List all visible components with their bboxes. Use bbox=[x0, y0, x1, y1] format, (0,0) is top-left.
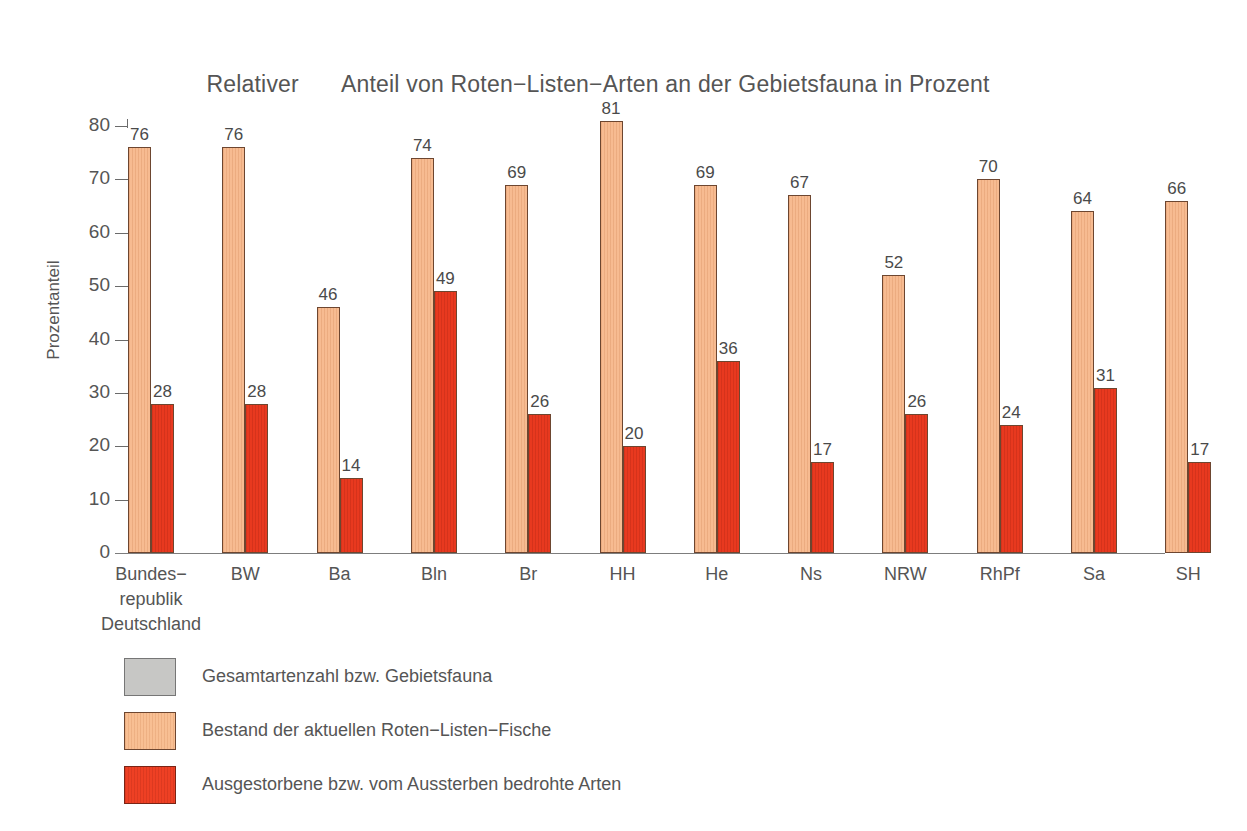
bar[interactable] bbox=[411, 158, 434, 553]
bar[interactable] bbox=[434, 291, 457, 553]
bar-chart: RelativerAnteil von Roten−Listen−Arten a… bbox=[0, 0, 1247, 831]
bar[interactable] bbox=[1165, 201, 1188, 553]
bar[interactable] bbox=[1000, 425, 1023, 553]
bar-value-label: 81 bbox=[602, 100, 621, 117]
x-tick-label: SH bbox=[1113, 562, 1247, 587]
bar[interactable] bbox=[151, 404, 174, 553]
bar[interactable] bbox=[717, 361, 740, 553]
legend-swatch bbox=[124, 766, 176, 804]
bar-value-label: 74 bbox=[413, 137, 432, 154]
bar[interactable] bbox=[245, 404, 268, 553]
bar-value-label: 24 bbox=[1002, 404, 1021, 421]
bar[interactable] bbox=[128, 147, 151, 553]
bar-value-label: 20 bbox=[625, 425, 644, 442]
bar-value-label: 17 bbox=[1190, 441, 1209, 458]
bar[interactable] bbox=[1188, 462, 1211, 553]
bar-value-label: 52 bbox=[884, 254, 903, 271]
bar-value-label: 31 bbox=[1096, 367, 1115, 384]
bar-value-label: 28 bbox=[247, 383, 266, 400]
bar-value-label: 69 bbox=[507, 164, 526, 181]
bar-value-label: 28 bbox=[153, 383, 172, 400]
bar-value-label: 70 bbox=[979, 158, 998, 175]
bar[interactable] bbox=[882, 275, 905, 553]
bar[interactable] bbox=[600, 121, 623, 553]
bar[interactable] bbox=[811, 462, 834, 553]
legend-label: Bestand der aktuellen Roten−Listen−Fisch… bbox=[202, 720, 551, 741]
bar[interactable] bbox=[340, 478, 363, 553]
bar-value-label: 67 bbox=[790, 174, 809, 191]
bar-value-label: 76 bbox=[130, 126, 149, 143]
legend-swatch bbox=[124, 658, 176, 696]
bar[interactable] bbox=[505, 185, 528, 553]
bar[interactable] bbox=[694, 185, 717, 553]
bar[interactable] bbox=[317, 307, 340, 553]
bar-value-label: 26 bbox=[907, 393, 926, 410]
bar[interactable] bbox=[222, 147, 245, 553]
bar-value-label: 69 bbox=[696, 164, 715, 181]
bar[interactable] bbox=[905, 414, 928, 553]
bar[interactable] bbox=[1071, 211, 1094, 553]
bar-value-label: 46 bbox=[319, 286, 338, 303]
bar[interactable] bbox=[788, 195, 811, 553]
bar-value-label: 36 bbox=[719, 340, 738, 357]
bar[interactable] bbox=[1094, 388, 1117, 553]
legend-swatch bbox=[124, 712, 176, 750]
bar-value-label: 17 bbox=[813, 441, 832, 458]
bar-value-label: 66 bbox=[1167, 180, 1186, 197]
bar-value-label: 26 bbox=[530, 393, 549, 410]
bar-value-label: 64 bbox=[1073, 190, 1092, 207]
bar-value-label: 14 bbox=[342, 457, 361, 474]
bar-value-label: 49 bbox=[436, 270, 455, 287]
legend-label: Gesamtartenzahl bzw. Gebietsfauna bbox=[202, 666, 492, 687]
legend-label: Ausgestorbene bzw. vom Aussterben bedroh… bbox=[202, 774, 621, 795]
bar[interactable] bbox=[623, 446, 646, 553]
bar[interactable] bbox=[977, 179, 1000, 553]
bars-layer: 7628762846147449692681206936671752267024… bbox=[0, 0, 1247, 831]
bar-value-label: 76 bbox=[224, 126, 243, 143]
bar[interactable] bbox=[528, 414, 551, 553]
